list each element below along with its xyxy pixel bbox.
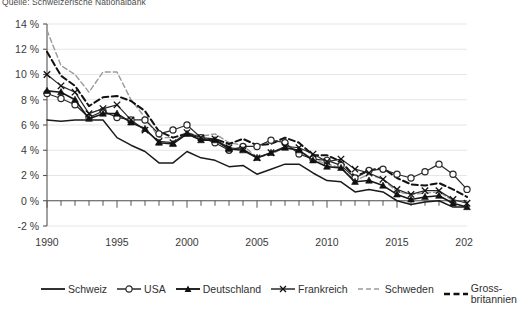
marker-circle [184,122,190,128]
legend-item-schweden[interactable]: Schweden [357,283,434,295]
legend-label-schweden: Schweden [385,283,434,295]
marker-circle [408,175,414,181]
marker-circle [436,161,442,167]
chart-legend: SchweizUSADeutschlandFrankreichSchwedenG… [0,283,473,318]
x-tick-label: 1990 [35,236,59,248]
legend-marker-schweden [357,283,383,295]
y-tick-label: 14 % [15,18,39,30]
marker-circle [394,171,400,177]
legend-item-usa[interactable]: USA [116,283,166,295]
marker-circle [464,186,470,192]
marker-circle [58,95,64,101]
legend-marker-schweiz [40,283,66,295]
legend-item-grossbritannien[interactable]: Gross-britannien [443,283,519,305]
legend-label-grossbritannien: Gross-britannien [471,283,519,305]
marker-circle [142,117,148,123]
legend-marker-circle [126,286,132,292]
marker-circle [450,171,456,177]
x-tick-label: 2010 [315,236,339,248]
marker-circle [380,166,386,172]
source-note: Quelle: Schweizerische Nationalbank [2,0,146,7]
series-line-frankreich [47,75,467,204]
marker-circle [170,127,176,133]
y-tick-label: -2 % [17,220,39,232]
x-tick-label: 2015 [385,236,409,248]
legend-row: SchweizUSADeutschlandFrankreichSchwedenG… [0,283,473,305]
legend-marker-deutschland [175,283,201,295]
series-line-usa [47,93,467,189]
y-tick-marks [43,24,47,226]
legend-label-schweiz: Schweiz [68,283,107,295]
y-tick-labels: -2 %0 %2 %4 %6 %8 %10 %12 %14 % [15,18,39,232]
marker-circle [268,137,274,143]
series-layer [44,30,471,209]
y-tick-label: 2 % [21,169,39,181]
chart-plot-area: -2 %0 %2 %4 %6 %8 %10 %12 %14 % 19901995… [0,14,473,270]
line-chart: -2 %0 %2 %4 %6 %8 %10 %12 %14 % 19901995… [0,14,473,270]
x-tick-label: 2005 [245,236,269,248]
series-schweiz [47,120,467,207]
legend-label-frankreich: Frankreich [298,283,348,295]
legend-label-usa: USA [144,283,166,295]
legend-marker-grossbritannien [443,288,469,300]
y-tick-label: 8 % [21,94,39,106]
x-tick-labels: 1990199520002005201020152020 [35,236,473,248]
marker-circle [156,131,162,137]
y-tick-label: 4 % [21,144,39,156]
marker-circle [254,143,260,149]
marker-circle [422,169,428,175]
legend-label-deutschland: Deutschland [203,283,261,295]
y-tick-label: 0 % [21,195,39,207]
y-tick-label: 12 % [15,43,39,55]
x-tick-marks [47,201,467,208]
y-tick-label: 6 % [21,119,39,131]
legend-item-deutschland[interactable]: Deutschland [175,283,261,295]
legend-marker-frankreich [270,283,296,295]
x-tick-label: 1995 [105,236,129,248]
legend-item-frankreich[interactable]: Frankreich [270,283,348,295]
y-tick-label: 10 % [15,68,39,80]
legend-item-schweiz[interactable]: Schweiz [40,283,107,295]
series-line-schweiz [47,120,467,207]
legend-marker-usa [116,283,142,295]
series-frankreich [44,71,470,206]
x-tick-label: 2020 [455,236,473,248]
series-usa [44,90,470,192]
x-tick-label: 2000 [175,236,199,248]
gridlines [47,24,467,226]
